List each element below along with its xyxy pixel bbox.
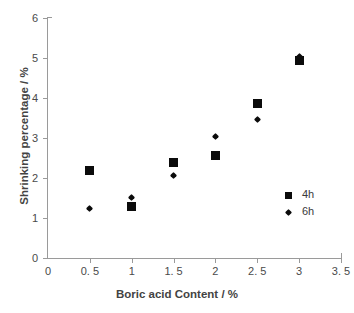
x-tick [174,258,175,263]
x-tick [341,258,342,263]
y-axis-title: Shrinking percentage / % [18,16,30,256]
x-axis-line [47,258,342,259]
data-point-4h-1 [127,202,136,211]
x-tick-label: 1 [112,266,152,277]
data-point-6h-1.5 [170,172,177,179]
data-point-4h-0.5 [85,166,94,175]
legend-label-6h: 6h [296,206,314,217]
plot-area [48,18,341,258]
data-point-6h-2 [212,133,219,140]
data-point-4h-2 [211,151,220,160]
scatter-chart: 0123456 00. 511. 522. 533. 5 Boric acid … [0,0,354,313]
x-tick-label: 2. 5 [237,266,277,277]
x-tick [299,258,300,263]
legend-label-4h: 4h [296,189,314,200]
chart-legend: 4h 6h [282,186,344,220]
x-tick-label: 0. 5 [70,266,110,277]
x-tick [132,258,133,263]
x-tick [257,258,258,263]
x-tick-label: 0 [28,266,68,277]
x-tick-label: 3. 5 [321,266,354,277]
x-tick-label: 2 [195,266,235,277]
data-point-6h-2.5 [254,116,261,123]
x-tick-label: 3 [279,266,319,277]
diamond-marker-icon [282,205,296,219]
legend-item-4h: 4h [282,186,344,203]
data-point-4h-2.5 [253,99,262,108]
legend-item-6h: 6h [282,203,344,220]
x-tick [90,258,91,263]
data-point-6h-0.5 [86,204,93,211]
y-tick [43,258,48,259]
data-point-4h-1.5 [169,158,178,167]
square-marker-icon [282,188,296,202]
data-point-6h-1 [128,194,135,201]
x-tick-label: 1. 5 [154,266,194,277]
x-axis-title: Boric acid Content / % [0,288,354,300]
x-tick [215,258,216,263]
